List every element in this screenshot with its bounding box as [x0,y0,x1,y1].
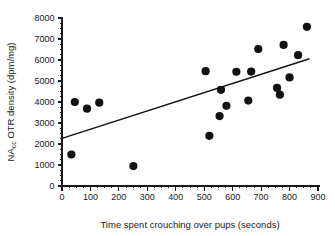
y-tick-label: 7000 [34,34,54,44]
y-tick-label: 6000 [34,55,54,65]
data-point [254,45,262,53]
x-axis-title: Time spent crouching over pups (seconds) [100,219,279,230]
y-tick-label: 3000 [34,118,54,128]
x-tick-label: 600 [225,192,240,202]
x-tick-label: 500 [197,192,212,202]
data-point [205,132,213,140]
data-point [279,41,287,49]
y-tick-label: 0 [49,181,54,191]
chart-canvas: 0100200300400500600700800900 01000200030… [0,0,335,236]
data-point [247,67,255,75]
x-tick-label: 100 [83,192,98,202]
data-point [67,150,75,158]
y-tick-label: 2000 [34,139,54,149]
data-point [244,96,252,104]
scatter-plot-figure: 0100200300400500600700800900 01000200030… [0,0,335,236]
x-tick-label: 300 [140,192,155,202]
data-point [294,51,302,59]
y-tick-label: 1000 [34,160,54,170]
x-tick-label: 700 [254,192,269,202]
x-axis-label: Time spent crouching over pups (seconds) [100,219,279,230]
data-point [83,105,91,113]
data-point [202,67,210,75]
data-point [222,102,230,110]
y-tick-label: 8000 [34,13,54,23]
data-point [215,112,223,120]
x-tick-label: 200 [111,192,126,202]
data-point [95,99,103,107]
x-tick-label: 400 [168,192,183,202]
data-point [276,91,284,99]
y-axis-tick-labels: 010002000300040005000600070008000 [34,13,54,191]
y-tick-label: 5000 [34,76,54,86]
data-point [303,23,311,31]
data-point [285,73,293,81]
y-tick-label: 4000 [34,97,54,107]
x-tick-label: 900 [310,192,325,202]
data-point [217,86,225,94]
data-point [129,162,137,170]
x-tick-label: 800 [282,192,297,202]
x-tick-label: 0 [59,192,64,202]
data-point [71,98,79,106]
data-point [232,68,240,76]
